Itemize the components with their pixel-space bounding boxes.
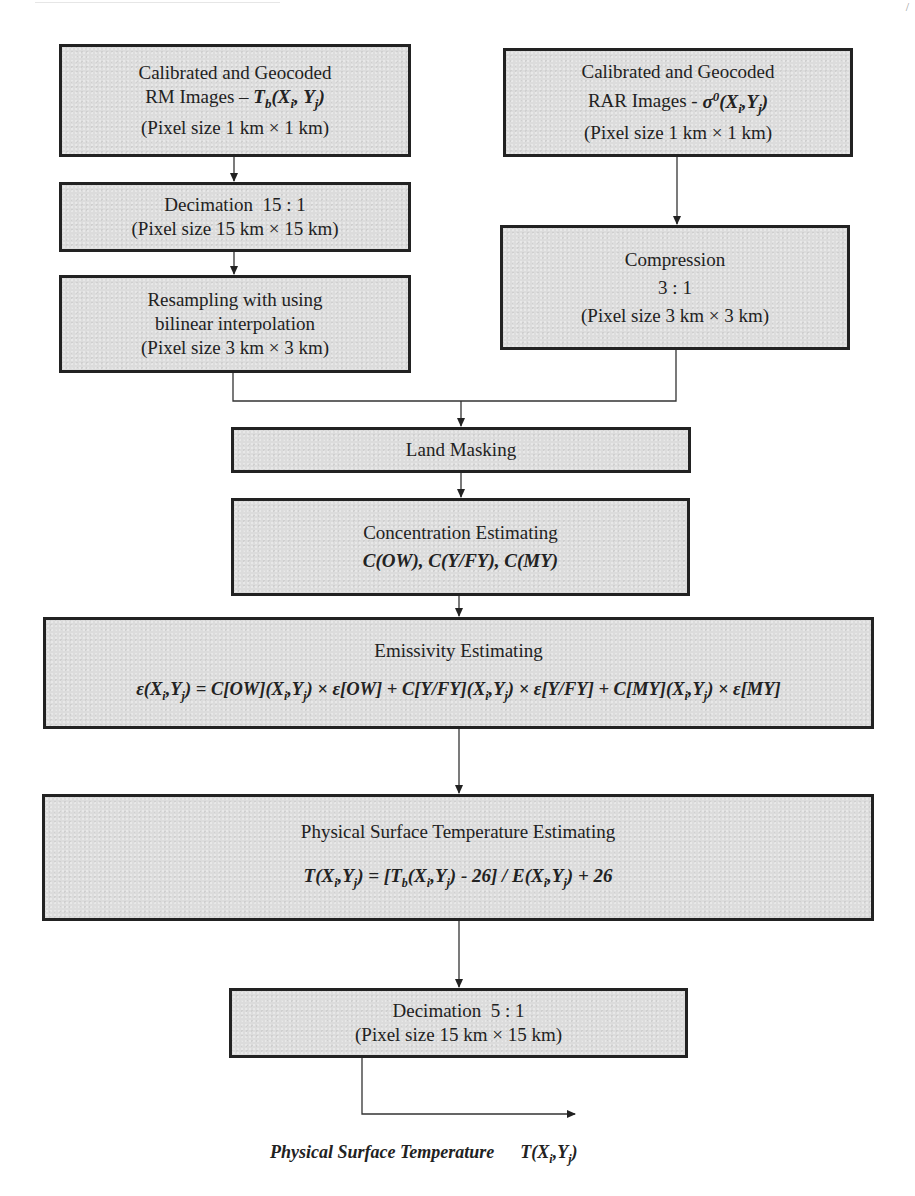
- node-rar-images: Calibrated and Geocoded RAR Images - σ0(…: [503, 48, 853, 157]
- node-label: Land Masking: [406, 438, 516, 462]
- node-label: (Pixel size 15 km × 15 km): [355, 1023, 562, 1047]
- node-compression: Compression 3 : 1 (Pixel size 3 km × 3 k…: [500, 225, 850, 350]
- emissivity-formula: ε(Xi,Yj) = C[OW](Xi,Yj) × ε[OW] + C[Y/FY…: [136, 677, 781, 708]
- node-label: (Pixel size 15 km × 15 km): [131, 217, 338, 241]
- node-physical-temp: Physical Surface Temperature Estimating …: [42, 794, 874, 921]
- node-label: bilinear interpolation: [155, 312, 315, 336]
- arrow-to-output: [362, 1057, 575, 1114]
- node-rm-images: Calibrated and Geocoded RM Images – Tb(X…: [59, 44, 411, 157]
- node-label: Compression: [625, 246, 725, 274]
- node-decimation-5: Decimation 5 : 1 (Pixel size 15 km × 15 …: [229, 988, 688, 1058]
- temperature-formula: T(Xi,Yj) = [Tb(Xi,Yj) - 26] / E(Xi,Yj) +…: [304, 864, 613, 895]
- node-label: Emissivity Estimating: [374, 639, 542, 663]
- node-decimation-15: Decimation 15 : 1 (Pixel size 15 km × 15…: [59, 182, 411, 252]
- node-concentration: Concentration Estimating C(OW), C(Y/FY),…: [231, 498, 690, 596]
- node-emissivity: Emissivity Estimating ε(Xi,Yj) = C[OW](X…: [43, 617, 874, 729]
- math-tb: Tb(Xi, Yj): [253, 86, 324, 107]
- node-label: (Pixel size 1 km × 1 km): [141, 116, 329, 140]
- node-label: Calibrated and Geocoded: [138, 61, 331, 85]
- node-label: (Pixel size 3 km × 3 km): [141, 336, 329, 360]
- node-label: Physical Surface Temperature Estimating: [301, 820, 615, 844]
- node-label: Concentration Estimating: [363, 519, 558, 547]
- math-sigma0: σ0(Xi,Yj): [702, 91, 768, 112]
- node-land-masking: Land Masking: [231, 427, 691, 473]
- node-label: (Pixel size 1 km × 1 km): [584, 121, 772, 145]
- node-label: Decimation 5 : 1: [393, 999, 525, 1023]
- output-symbol: T(Xi,Yj): [520, 1142, 577, 1162]
- label-text: RAR Images -: [588, 91, 703, 112]
- node-formula: C(OW), C(Y/FY), C(MY): [363, 547, 558, 575]
- node-label: 3 : 1: [658, 274, 692, 302]
- output-text: Physical Surface Temperature: [270, 1142, 494, 1162]
- node-label: Decimation 15 : 1: [164, 193, 305, 217]
- label-text: RM Images –: [145, 86, 253, 107]
- node-label: RM Images – Tb(Xi, Yj): [145, 85, 325, 116]
- node-label: Resampling with using: [147, 288, 322, 312]
- node-label: (Pixel size 3 km × 3 km): [581, 302, 769, 330]
- node-label: Calibrated and Geocoded: [581, 60, 774, 84]
- output-label: Physical Surface TemperatureT(Xi,Yj): [270, 1142, 578, 1167]
- node-resampling: Resampling with using bilinear interpola…: [59, 275, 411, 373]
- node-label: RAR Images - σ0(Xi,Yj): [588, 84, 768, 120]
